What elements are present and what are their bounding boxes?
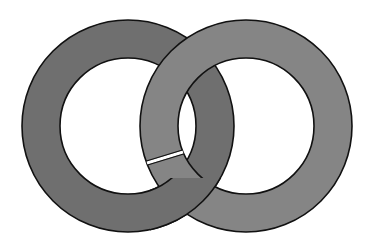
rings-canvas xyxy=(0,0,374,251)
interlocking-rings-diagram xyxy=(0,0,374,251)
